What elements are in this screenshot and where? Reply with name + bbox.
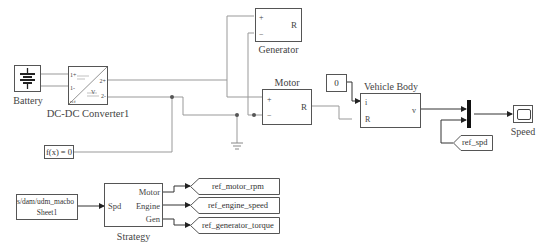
converter-port-2minus: 2- — [101, 92, 106, 100]
goto-ref-motor-rpm[interactable]: ref_motor_rpm — [190, 178, 280, 195]
battery-icon — [15, 66, 40, 91]
generator-block[interactable]: + − R — [255, 8, 302, 42]
ref-spd-label: ref_spd — [462, 137, 488, 147]
battery-block[interactable] — [14, 65, 41, 92]
goto-ref-generator-torque[interactable]: ref_generator_torque — [190, 217, 280, 234]
ref-spd-from-tag[interactable]: ref_spd — [453, 135, 493, 151]
constant-value: 0 — [327, 78, 346, 88]
generator-label: Generator — [255, 44, 302, 55]
scope-block[interactable] — [513, 105, 533, 123]
vehicle-body-block[interactable]: i R v — [360, 93, 421, 128]
scope-screen-icon — [517, 109, 531, 120]
strategy-port-engine: Engine — [136, 202, 160, 210]
vehicle-body-port-i: i — [365, 99, 367, 107]
vehicle-body-label: Vehicle Body — [360, 81, 422, 92]
converter-port-ref: ref — [70, 98, 76, 106]
goto-ref-engine-speed[interactable]: ref_engine_speed — [190, 197, 280, 214]
generator-port-minus: − — [259, 31, 264, 39]
motor-port-r: R — [301, 103, 307, 111]
converter-port-1plus: 1+ — [70, 71, 76, 79]
spreadsheet-sheet: Sheet1 — [17, 208, 77, 217]
strategy-port-motor: Motor — [139, 188, 160, 196]
battery-label: Battery — [10, 95, 46, 106]
spreadsheet-path: s/dam/udm_macbo — [17, 197, 74, 206]
converter-port-2plus: 2+ — [100, 77, 106, 85]
motor-label: Motor — [262, 77, 312, 88]
generator-port-plus: + — [259, 14, 264, 22]
dc-dc-converter-label: DC-DC Converter1 — [46, 108, 130, 119]
from-spreadsheet-block[interactable]: s/dam/udm_macbo Sheet1 — [16, 194, 78, 220]
mux-block[interactable] — [466, 100, 472, 128]
vehicle-body-port-r: R — [365, 116, 370, 124]
goto-label: ref_motor_rpm — [212, 181, 264, 191]
converter-port-v: V — [91, 88, 95, 96]
solver-label: f(x) = 0 — [46, 147, 72, 157]
dc-dc-converter-block[interactable]: 1+ 1- 2+ 2- V ref — [68, 66, 108, 105]
converter-port-1minus: 1- — [70, 84, 75, 92]
motor-port-minus: − — [267, 112, 272, 120]
motor-block[interactable]: + − R — [262, 89, 312, 125]
scope-label: Speed — [508, 126, 538, 137]
goto-label: ref_engine_speed — [208, 200, 268, 210]
motor-port-plus: + — [267, 96, 272, 104]
strategy-port-gen: Gen — [146, 215, 160, 223]
goto-label: ref_generator_torque — [202, 220, 274, 230]
solver-config-block[interactable]: f(x) = 0 — [44, 145, 74, 159]
strategy-block[interactable]: Spd Motor Engine Gen — [104, 183, 163, 227]
strategy-label: Strategy — [104, 231, 163, 242]
strategy-port-spd: Spd — [108, 202, 121, 210]
vehicle-body-port-v: v — [412, 107, 416, 115]
generator-port-r: R — [291, 21, 297, 29]
constant-block[interactable]: 0 — [326, 74, 347, 92]
